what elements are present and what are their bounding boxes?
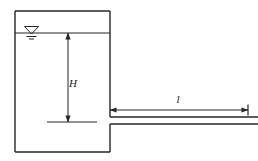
hydraulics-diagram: H l — [0, 0, 258, 161]
discharge-pipe — [110, 117, 258, 124]
diagram-canvas: H l — [0, 0, 258, 161]
length-label: l — [176, 93, 179, 105]
head-arrowhead-top-icon — [65, 33, 70, 40]
head-label: H — [68, 77, 78, 89]
length-dimension — [110, 105, 249, 116]
